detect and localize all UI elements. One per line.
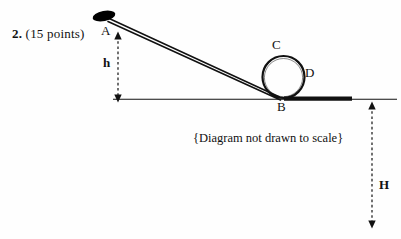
- problem-points: (15 points): [26, 26, 85, 41]
- dimension-arrow-H: [368, 102, 375, 229]
- point-label-c: C: [272, 38, 281, 51]
- point-label-b: B: [277, 100, 286, 113]
- dimension-arrow-h: [114, 32, 121, 103]
- point-label-d: D: [305, 66, 314, 79]
- diagram-page: 2. (15 points) A B C D h H {Diagram not …: [0, 0, 401, 239]
- problem-number: 2.: [12, 26, 22, 41]
- problem-number-label: 2. (15 points): [12, 26, 85, 42]
- incline-ramp: [107, 18, 281, 101]
- block-mass-icon: [92, 9, 116, 23]
- loop-circle-inner-edge: [264, 59, 302, 97]
- point-label-a: A: [101, 24, 110, 37]
- loop-circle: [263, 56, 305, 98]
- dimension-label-H: H: [379, 178, 389, 191]
- dimension-label-h: h: [103, 56, 110, 69]
- diagram-caption: {Diagram not drawn to scale}: [193, 131, 343, 146]
